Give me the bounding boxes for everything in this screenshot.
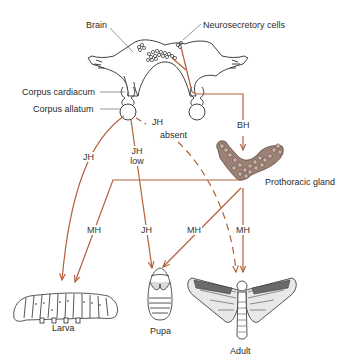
insect-hormone-diagram: Brain Neurosecretory cells Corpus cardia… — [0, 0, 349, 362]
adult-moth-illustration — [188, 278, 297, 339]
label-jh-larva: JH — [82, 152, 95, 162]
label-jh-absent-level: absent — [160, 130, 187, 140]
brain-shape — [88, 40, 248, 120]
larva-illustration — [14, 293, 118, 323]
label-mh-adult: MH — [235, 225, 251, 235]
pupa-illustration — [148, 268, 172, 320]
label-prothoracic-gland: Prothoracic gland — [265, 177, 335, 187]
label-bh: BH — [236, 120, 251, 130]
label-jh-low-level: low — [130, 156, 144, 166]
label-neurosecretory-cells: Neurosecretory cells — [203, 20, 285, 30]
label-jh-low-hormone: JH — [132, 146, 143, 156]
prothoracic-gland — [217, 141, 284, 180]
hormone-arrows — [62, 116, 243, 282]
label-adult: Adult — [230, 346, 251, 356]
label-pupa: Pupa — [150, 326, 171, 336]
label-jh-pupa: JH — [140, 225, 153, 235]
label-corpus-cardiacum: Corpus cardiacum — [22, 87, 95, 97]
label-mh-larva: MH — [86, 225, 102, 235]
label-corpus-allatum: Corpus allatum — [33, 104, 94, 114]
label-larva: Larva — [52, 323, 75, 333]
label-mh-pupa: MH — [186, 225, 202, 235]
label-brain: Brain — [86, 20, 107, 30]
label-jh-low: JH low — [128, 146, 146, 166]
label-jh-absent-hormone: JH — [152, 117, 163, 127]
